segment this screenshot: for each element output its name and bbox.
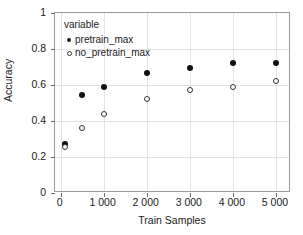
y-axis-tick-label: 0.4 [2,114,46,126]
chart-legend: variable pretrain_max no_pretrain_max [63,19,150,60]
x-axis-tick-label: 5 000 [262,196,288,208]
open-circle-icon [63,51,75,56]
legend-label: no_pretrain_max [75,47,150,60]
x-axis-tick-label: 2 000 [133,196,159,208]
y-axis-tick [51,157,55,158]
data-point [62,144,68,150]
data-point [230,60,236,66]
plot-area: variable pretrain_max no_pretrain_max [54,12,290,192]
y-axis-tick [51,13,55,14]
data-point [230,84,236,90]
data-point [144,70,150,76]
x-axis-tick-label: 3 000 [176,196,202,208]
y-axis-tick-label: 1 [2,6,46,18]
x-axis-tick-label: 0 [57,196,63,208]
legend-title: variable [63,19,150,32]
data-point [187,65,193,71]
y-axis-tick [51,85,55,86]
legend-item-pretrain-max[interactable]: pretrain_max [63,34,150,47]
gridline-horizontal [55,121,289,122]
data-point [79,125,85,131]
y-axis-tick-label: 0.6 [2,78,46,90]
data-point [187,87,193,93]
gridline-vertical [61,13,62,191]
gridline-horizontal [55,85,289,86]
legend-label: pretrain_max [75,34,133,47]
legend-item-no-pretrain-max[interactable]: no_pretrain_max [63,47,150,60]
data-point [101,111,107,117]
y-axis-tick-label: 0.2 [2,150,46,162]
gridline-horizontal [55,157,289,158]
x-axis-tick-label: 1 000 [90,196,116,208]
y-axis-tick-label: 0 [2,186,46,198]
gridline-vertical [233,13,234,191]
data-point [79,92,85,98]
y-axis-tick [51,49,55,50]
x-axis-title: Train Samples [54,214,290,226]
x-axis-tick-label: 4 000 [219,196,245,208]
gridline-vertical [276,13,277,191]
data-point [101,84,107,90]
y-axis-tick [51,121,55,122]
chart-figure: Accuracy Train Samples variable pretrain… [0,0,303,235]
filled-circle-icon [63,38,75,42]
y-axis-tick-label: 0.8 [2,42,46,54]
data-point [144,96,150,102]
y-axis-tick [51,193,55,194]
data-point [273,78,279,84]
gridline-vertical [190,13,191,191]
data-point [273,60,279,66]
